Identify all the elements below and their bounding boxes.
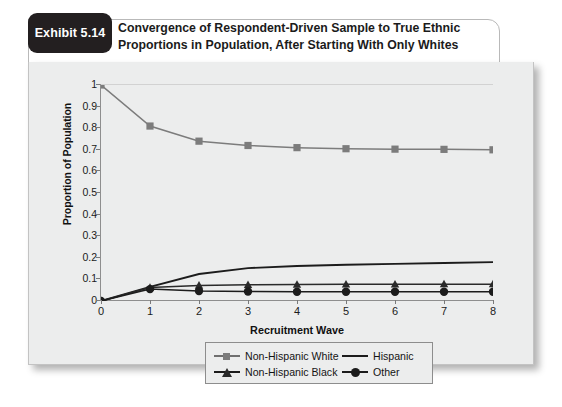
exhibit-badge: Exhibit 5.14 bbox=[28, 13, 112, 53]
data-point bbox=[489, 288, 493, 296]
legend-label: Non-Hispanic Black bbox=[245, 366, 337, 378]
y-axis-tick-label: 1 bbox=[35, 78, 97, 90]
square-line-key-icon bbox=[214, 350, 240, 362]
y-axis-tick-label: 0.1 bbox=[35, 272, 97, 284]
x-axis-tick-label: 0 bbox=[98, 305, 104, 317]
legend-label: Non-Hispanic White bbox=[245, 350, 339, 362]
data-point bbox=[244, 142, 251, 149]
line-chart: Proportion of Population 00.10.20.30.40.… bbox=[29, 62, 535, 365]
data-point bbox=[440, 288, 448, 296]
chart-legend: Non-Hispanic White Hispanic Non- bbox=[205, 342, 433, 384]
data-point bbox=[391, 146, 398, 153]
data-point bbox=[440, 146, 447, 153]
data-point bbox=[391, 288, 399, 296]
x-axis-tick-mark bbox=[297, 300, 298, 304]
y-axis-tick-label: 0.3 bbox=[35, 229, 97, 241]
y-axis-tick-label: 0.5 bbox=[35, 186, 97, 198]
exhibit-badge-label: Exhibit 5.14 bbox=[35, 26, 106, 40]
y-axis-tick-label: 0.8 bbox=[35, 121, 97, 133]
triangle-line-key-icon bbox=[214, 366, 240, 378]
y-axis-tick-label: 0.6 bbox=[35, 164, 97, 176]
x-axis-tick-mark bbox=[493, 300, 494, 304]
plain-line-key-icon bbox=[342, 350, 368, 362]
x-axis-tick-mark bbox=[150, 300, 151, 304]
legend-row-2: Non-Hispanic Black Other bbox=[214, 364, 424, 380]
legend-item-other[interactable]: Other bbox=[342, 366, 400, 378]
exhibit-title-line-2: Proportions in Population, After Startin… bbox=[118, 37, 490, 54]
legend-item-non-hispanic-white[interactable]: Non-Hispanic White bbox=[214, 350, 342, 362]
exhibit-page: Exhibit 5.14 Convergence of Respondent-D… bbox=[0, 0, 562, 407]
data-point bbox=[244, 287, 252, 295]
x-axis-tick-label: 1 bbox=[147, 305, 153, 317]
data-point bbox=[101, 85, 105, 89]
y-axis-tick-label: 0 bbox=[35, 294, 97, 306]
series-non-hispanic-white bbox=[101, 85, 493, 153]
y-axis-tick-label: 0.4 bbox=[35, 208, 97, 220]
legend-item-non-hispanic-black[interactable]: Non-Hispanic Black bbox=[214, 366, 342, 378]
exhibit-title: Convergence of Respondent-Driven Sample … bbox=[118, 20, 490, 53]
x-axis-tick-label: 3 bbox=[245, 305, 251, 317]
x-axis-title: Recruitment Wave bbox=[101, 324, 493, 336]
x-axis-tick-mark bbox=[395, 300, 396, 304]
x-axis-tick-mark bbox=[444, 300, 445, 304]
plot-area bbox=[101, 84, 493, 300]
x-axis-tick-mark bbox=[101, 300, 102, 304]
exhibit-body: Proportion of Population 00.10.20.30.40.… bbox=[28, 62, 534, 365]
y-axis-labels: 00.10.20.30.40.50.60.70.80.91 bbox=[29, 62, 97, 322]
legend-label: Other bbox=[373, 366, 400, 378]
x-axis-tick-label: 7 bbox=[441, 305, 447, 317]
legend-item-hispanic[interactable]: Hispanic bbox=[342, 350, 414, 362]
data-point bbox=[293, 144, 300, 151]
data-point bbox=[195, 287, 203, 295]
data-point bbox=[489, 146, 493, 153]
x-axis-tick-label: 8 bbox=[490, 305, 496, 317]
data-point bbox=[342, 288, 350, 296]
data-point bbox=[293, 288, 301, 296]
x-axis-tick-mark bbox=[346, 300, 347, 304]
exhibit-title-line-1: Convergence of Respondent-Driven Sample … bbox=[118, 20, 490, 37]
data-point bbox=[146, 285, 154, 293]
x-axis-tick-mark bbox=[199, 300, 200, 304]
series-line bbox=[101, 85, 493, 150]
y-axis-tick-label: 0.9 bbox=[35, 100, 97, 112]
y-axis-tick-label: 0.2 bbox=[35, 251, 97, 263]
series-layer bbox=[101, 85, 493, 301]
data-point bbox=[342, 145, 349, 152]
circle-line-key-icon bbox=[342, 366, 368, 378]
x-axis-tick-label: 4 bbox=[294, 305, 300, 317]
data-point bbox=[146, 122, 153, 129]
x-axis-tick-label: 6 bbox=[392, 305, 398, 317]
x-axis-tick-label: 2 bbox=[196, 305, 202, 317]
legend-label: Hispanic bbox=[373, 350, 414, 362]
x-axis-tick-label: 5 bbox=[343, 305, 349, 317]
legend-row-1: Non-Hispanic White Hispanic bbox=[214, 348, 424, 364]
data-point bbox=[195, 138, 202, 145]
x-axis-tick-mark bbox=[248, 300, 249, 304]
y-axis-tick-label: 0.7 bbox=[35, 143, 97, 155]
